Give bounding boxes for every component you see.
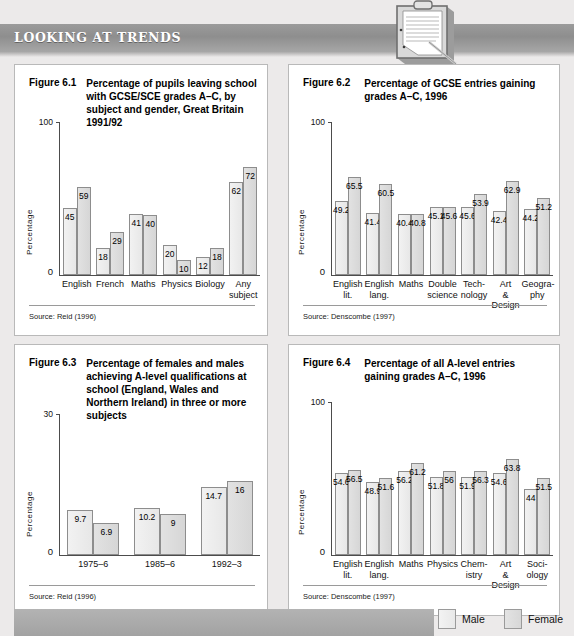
bar-male: 45.6 [461,207,474,275]
bar-male: 45 [63,208,77,276]
chart-6-4: 100 0 Percentage 54.656.548.951.656.261.… [289,345,561,617]
bar-female: 40 [143,215,157,275]
bar-female: 51.2 [537,198,550,275]
y-axis-label: Percentage [25,491,34,537]
bottom-bar [14,609,434,636]
bar-male: 14.7 [201,487,227,555]
figure-panel-6-3: Figure 6.3 Percentage of females and mal… [14,344,268,616]
bar-female: 51.6 [379,478,392,555]
bar-value-label: 45 [65,212,74,222]
x-axis-tick-label: English [60,279,93,290]
y-axis-zero-label: 0 [27,266,53,277]
plot-area: 54.656.548.951.656.261.251.85651.956.354… [332,405,553,555]
x-axis-line [331,555,553,556]
bar-value-label: 20 [165,249,174,259]
bar-value-label: 9.7 [74,514,86,524]
bar-group: 45.653.9 [461,194,487,275]
chart-6-1: 100 0 Percentage 45591829414020101218627… [15,65,269,337]
source-note: Source: Denscombe (1997) [303,592,395,601]
bar-male: 44.2 [524,209,537,275]
x-axis-tick-label: Maths [395,279,427,290]
x-axis-tick-label: Biology [193,279,226,290]
bar-female: 56 [443,471,456,555]
bar-value-label: 62.9 [504,185,521,195]
y-axis-max-label: 100 [299,397,325,407]
x-axis-line [59,275,260,276]
bar-group: 9.76.9 [67,510,119,555]
bar-value-label: 41 [132,218,141,228]
bar-value-label: 40.8 [409,218,426,228]
bar-female: 56.3 [474,471,487,555]
x-axis-line [331,275,553,276]
bar-female: 61.2 [411,463,424,555]
bar-group: 49.265.5 [335,177,361,275]
x-axis-tick-label: Englishlit. [332,279,364,300]
bar-group: 2010 [163,245,191,275]
x-axis-tick-label: French [93,279,126,290]
bar-value-label: 51.6 [378,482,395,492]
bar-male: 48.9 [366,482,379,555]
bar-group: 4140 [129,214,157,276]
legend-item-female: Female [504,609,563,629]
bar-female: 59 [77,187,91,276]
bar-male: 42.4 [493,211,506,275]
bar-value-label: 56 [444,475,453,485]
bar-value-label: 10.2 [139,512,156,522]
bar-male: 51.9 [461,477,474,555]
bar-group: 40.440.8 [398,214,424,275]
chart-legend: Male Female [438,606,574,632]
source-note: Source: Reid (1996) [29,312,96,321]
y-axis-max-label: 100 [299,117,325,127]
bar-value-label: 61.2 [409,467,426,477]
bar-value-label: 63.8 [504,463,521,473]
bar-male: 12 [196,257,210,275]
bar-male: 62 [229,182,243,275]
x-axis-tick-label: 1975–6 [60,559,127,570]
bar-female: 9 [160,514,186,555]
x-axis-tick-label: Geogra-phy [521,279,553,300]
x-axis-tick-label: 1985–6 [127,559,194,570]
bar-value-label: 12 [198,261,207,271]
bar-female: 72 [243,167,257,275]
source-note: Source: Reid (1996) [29,592,96,601]
bar-group: 14.716 [201,481,253,555]
figure-panel-6-4: Figure 6.4 Percentage of all A-level ent… [288,344,560,616]
x-axis-tick-label: Physics [160,279,193,290]
bar-female: 62.9 [506,181,519,275]
source-rule [303,305,547,306]
bar-value-label: 44 [526,493,535,503]
x-axis-tick-label: Tech-nology [458,279,490,300]
bar-value-label: 51.2 [535,202,552,212]
bar-female: 18 [210,248,224,275]
source-rule [29,585,255,586]
bar-male: 44 [524,489,537,555]
legend-swatch-female [504,609,522,629]
bar-group: 51.856 [430,471,456,555]
bar-value-label: 9 [171,518,176,528]
bar-female: 29 [110,232,124,276]
y-axis-zero-label: 0 [27,546,53,557]
bar-group: 54.656.5 [335,470,361,555]
y-axis-max-label: 30 [27,409,53,419]
bar-value-label: 6.9 [100,527,112,537]
bar-value-label: 29 [112,236,121,246]
bar-female: 10 [177,260,191,275]
bar-value-label: 40 [146,219,155,229]
bar-group: 48.951.6 [366,478,392,555]
legend-swatch-male [438,609,456,629]
bar-female: 56.5 [348,470,361,555]
bar-value-label: 10 [179,264,188,274]
bar-male: 20 [163,245,177,275]
bar-value-label: 60.5 [378,188,395,198]
bar-group: 1829 [96,232,124,276]
bar-group: 1218 [196,248,224,275]
bar-group: 45.145.6 [430,207,456,275]
x-axis-tick-label: Doublescience [427,279,459,300]
bar-female: 16 [227,481,253,555]
x-axis-tick-label: Maths [395,559,427,570]
bar-value-label: 18 [212,252,221,262]
x-axis-tick-label: 1992–3 [193,559,260,570]
source-rule [303,585,547,586]
bar-male: 18 [96,248,110,275]
x-axis-tick-label: Englishlit. [332,559,364,580]
